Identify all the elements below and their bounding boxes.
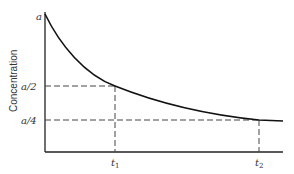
x-tick-t2: t2	[255, 157, 264, 170]
decay-chart: a a/2 a/4 t1 t2 Concentration	[0, 0, 294, 174]
y-tick-a-half: a/2	[21, 81, 37, 92]
y-axis-label: Concentration	[8, 50, 19, 112]
y-tick-a-quarter: a/4	[21, 115, 37, 126]
decay-curve	[45, 14, 283, 121]
x-tick-t1: t1	[111, 157, 120, 170]
y-tick-a: a	[36, 11, 42, 22]
